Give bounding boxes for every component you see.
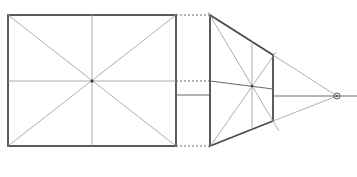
vanish-line-bottom <box>273 96 337 121</box>
perspective-diagram <box>0 0 357 177</box>
rect-center-point <box>90 79 93 82</box>
vanish-line-top <box>273 55 337 96</box>
perspective-trapezoid <box>210 15 273 146</box>
trap-diagonal-1 <box>208 12 279 131</box>
trap-horizontal-line <box>210 81 273 89</box>
vanishing-point-dot <box>336 95 338 97</box>
trap-center-point <box>251 85 254 88</box>
